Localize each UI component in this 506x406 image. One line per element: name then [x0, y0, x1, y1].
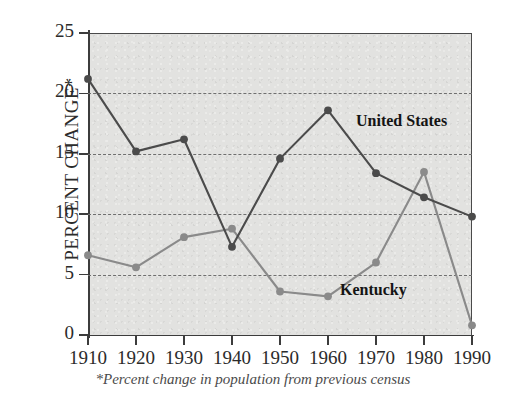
series-line-kentucky	[88, 172, 472, 325]
data-point	[420, 168, 428, 176]
data-point	[180, 233, 188, 241]
data-point	[468, 321, 476, 329]
series-label-kentucky: Kentucky	[340, 281, 407, 299]
chart-footnote: *Percent change in population from previ…	[0, 371, 506, 388]
data-point	[468, 213, 476, 221]
data-point	[420, 193, 428, 201]
series-plot	[0, 0, 506, 406]
data-point	[372, 259, 380, 267]
data-point	[228, 243, 236, 251]
data-point	[276, 155, 284, 163]
series-line-united-states	[88, 79, 472, 247]
data-point	[132, 263, 140, 271]
population-percent-change-line-chart: PERCENT CHANGE* 0510152025 1910192019301…	[0, 0, 506, 406]
data-point	[132, 147, 140, 155]
data-point	[324, 106, 332, 114]
series-label-united-states: United States	[356, 112, 447, 130]
data-point	[228, 225, 236, 233]
data-point	[180, 135, 188, 143]
data-point	[84, 75, 92, 83]
data-point	[276, 288, 284, 296]
data-point	[372, 169, 380, 177]
data-point	[84, 251, 92, 259]
data-point	[324, 292, 332, 300]
